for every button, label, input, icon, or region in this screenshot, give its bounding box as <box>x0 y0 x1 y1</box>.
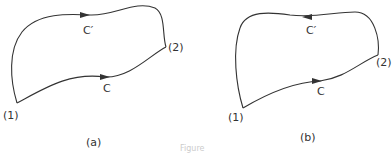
label-c-prime-a: C′ <box>83 25 93 36</box>
caption-b: (b) <box>300 132 316 143</box>
label-c-a: C <box>103 83 111 94</box>
label-point-1-a: (1) <box>3 110 19 121</box>
arrow-left-icon <box>302 14 312 20</box>
label-c-prime-b: C′ <box>306 25 316 36</box>
caption-a: (a) <box>86 137 101 148</box>
label-point-1-b: (1) <box>228 112 244 123</box>
figure-caption: Figure <box>180 145 204 153</box>
label-point-2-b: (2) <box>376 57 392 68</box>
arrow-right-icon <box>100 74 110 80</box>
arrow-right-icon <box>312 78 322 84</box>
arrow-right-icon <box>80 12 90 18</box>
path-c-prime-a <box>12 6 166 103</box>
path-c-b <box>243 55 378 108</box>
label-c-b: C <box>317 86 325 97</box>
diagram-a <box>12 6 166 103</box>
path-c-a <box>17 47 166 103</box>
label-point-2-a: (2) <box>168 42 184 53</box>
